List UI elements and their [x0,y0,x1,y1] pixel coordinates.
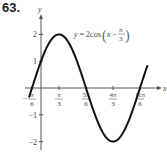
svg-text:6: 6 [84,100,88,108]
svg-text:1: 1 [33,57,37,66]
svg-text:π: π [119,26,123,34]
svg-text:−2: −2 [28,138,37,147]
svg-text:4π: 4π [109,91,117,99]
y-axis-label: y [37,5,42,14]
svg-text:y = 2cos: y = 2cos [73,30,101,39]
svg-text:−1: −1 [28,111,37,120]
svg-text:2: 2 [33,30,37,39]
svg-text:x −: x − [106,30,118,39]
cosine-graph: x y 21−1−2 −π6π35π64π311π6 y = 2cos ( x … [0,0,167,152]
svg-text:−: − [23,94,28,103]
svg-text:): ) [125,28,130,44]
svg-text:3: 3 [119,35,123,43]
svg-text:6: 6 [138,100,142,108]
svg-text:3: 3 [111,100,115,108]
x-axis-arrow-icon [157,86,162,90]
y-axis-arrow-icon [39,14,43,19]
svg-text:6: 6 [30,100,34,108]
svg-text:3: 3 [57,100,61,108]
x-axis-label: x [162,84,167,93]
equation-label: y = 2cos ( x − π 3 ) [73,26,130,44]
svg-text:π: π [57,91,61,99]
